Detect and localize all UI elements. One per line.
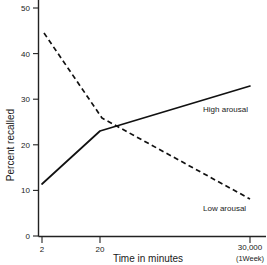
y-tick-label-10: 10 [21, 186, 30, 195]
y-axis-title: Percent recalled [5, 109, 16, 181]
series-annotation-high-arousal: High arousal [203, 105, 248, 114]
y-tick-labels: 50 40 30 20 10 0 [21, 4, 30, 241]
x-tick-label-30000: 30,000 [238, 243, 263, 252]
series-line-high-arousal [42, 86, 250, 184]
y-tick-label-20: 20 [21, 141, 30, 150]
axis-group [39, 0, 267, 237]
x-axis-title: Time in minutes [113, 253, 183, 264]
series-line-low-arousal [44, 33, 250, 199]
y-tick-label-0: 0 [26, 232, 31, 241]
x-tick-sublabel-one-week: (1Week) [236, 254, 265, 263]
x-tick-label-20: 20 [96, 245, 105, 254]
y-tick-label-50: 50 [21, 4, 30, 13]
y-tick-marks [33, 8, 39, 236]
x-tick-label-2: 2 [40, 245, 45, 254]
y-tick-label-30: 30 [21, 95, 30, 104]
y-tick-label-40: 40 [21, 50, 30, 59]
series-annotation-low-arousal: Low arousal [203, 204, 246, 213]
line-chart-canvas: 50 40 30 20 10 0 2 20 30,000 (1Week) Per… [0, 0, 267, 265]
chart-figure: 50 40 30 20 10 0 2 20 30,000 (1Week) Per… [0, 0, 267, 265]
x-tick-marks [42, 237, 250, 244]
